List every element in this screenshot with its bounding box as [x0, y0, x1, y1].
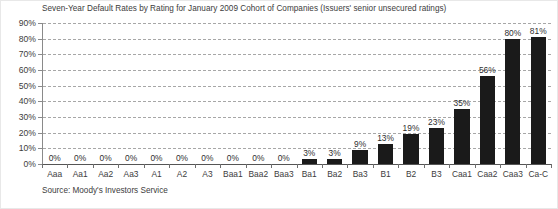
x-axis-category-label: Ba2 — [327, 169, 342, 179]
x-axis-tick — [42, 164, 43, 168]
bar-group: 0% — [195, 23, 220, 164]
x-axis-category-label: Ca-C — [528, 169, 548, 179]
x-axis-tick — [246, 164, 247, 168]
chart-title: Seven-Year Default Rates by Rating for J… — [42, 4, 446, 13]
y-axis-tick-label: 60% — [19, 65, 36, 75]
x-axis-tick — [398, 164, 399, 168]
bar-value-label: 80% — [504, 28, 521, 38]
x-axis-tick — [220, 164, 221, 168]
x-axis-category-label: Aa3 — [124, 169, 139, 179]
bar-value-label: 9% — [354, 139, 366, 149]
x-axis-tick — [297, 164, 298, 168]
x-axis-category-label: Baa1 — [223, 169, 243, 179]
x-axis-category-label: Caa3 — [503, 169, 523, 179]
bar-value-label: 35% — [454, 98, 471, 108]
x-axis-tick — [526, 164, 527, 168]
bar-group: 3% — [297, 23, 322, 164]
bar-value-label: 0% — [49, 153, 61, 163]
x-axis-category-label: A1 — [151, 169, 161, 179]
y-axis-tick-label: 10% — [19, 143, 36, 153]
bar: 23% — [429, 128, 444, 164]
bar-value-label: 0% — [201, 153, 213, 163]
x-axis-tick — [373, 164, 374, 168]
x-axis-tick — [93, 164, 94, 168]
bar-group: 9% — [347, 23, 372, 164]
bar-value-label: 81% — [530, 26, 547, 36]
source-note: Source: Moody's Investors Service — [42, 186, 168, 195]
bar-value-label: 0% — [176, 153, 188, 163]
x-axis-category-label: Caa2 — [477, 169, 497, 179]
bar: 13% — [378, 144, 393, 164]
bar-group: 0% — [118, 23, 143, 164]
x-axis-tick — [195, 164, 196, 168]
bar-group: 0% — [42, 23, 67, 164]
bar-group: 0% — [144, 23, 169, 164]
x-axis-category-label: A2 — [177, 169, 187, 179]
bar-value-label: 23% — [428, 117, 445, 127]
bar: 56% — [480, 76, 495, 164]
x-axis-category-label: Aa1 — [73, 169, 88, 179]
bar-group: 3% — [322, 23, 347, 164]
x-axis-tick — [271, 164, 272, 168]
bar: 9% — [352, 150, 367, 164]
x-axis-tick — [322, 164, 323, 168]
x-axis-category-label: B1 — [380, 169, 390, 179]
x-axis-tick — [169, 164, 170, 168]
bar-group: 0% — [246, 23, 271, 164]
bar: 81% — [531, 37, 546, 164]
x-axis-category-label: A3 — [202, 169, 212, 179]
bar: 3% — [302, 159, 317, 164]
y-axis-tick-label: 50% — [19, 81, 36, 91]
bar-value-label: 13% — [377, 133, 394, 143]
bar-group: 0% — [93, 23, 118, 164]
y-axis-tick-label: 40% — [19, 96, 36, 106]
bar: 35% — [454, 109, 469, 164]
bar-value-label: 3% — [329, 148, 341, 158]
x-axis-tick — [118, 164, 119, 168]
bar-group: 13% — [373, 23, 398, 164]
y-axis-tick-label: 30% — [19, 112, 36, 122]
bar-group: 56% — [475, 23, 500, 164]
bar-group: 80% — [500, 23, 525, 164]
x-axis-tick — [144, 164, 145, 168]
x-axis-category-label: Ba3 — [353, 169, 368, 179]
x-axis-category-label: Baa2 — [249, 169, 269, 179]
bar-group: 0% — [169, 23, 194, 164]
y-axis-tick-label: 20% — [19, 128, 36, 138]
y-axis-tick-label: 80% — [19, 34, 36, 44]
bar-value-label: 0% — [125, 153, 137, 163]
bar-group: 0% — [220, 23, 245, 164]
bar-value-label: 0% — [227, 153, 239, 163]
bar-value-label: 0% — [252, 153, 264, 163]
bar-group: 19% — [398, 23, 423, 164]
x-axis-category-label: Aaa — [47, 169, 62, 179]
bar-group: 35% — [449, 23, 474, 164]
x-axis-tick — [67, 164, 68, 168]
bar-value-label: 56% — [479, 65, 496, 75]
bar-group: 23% — [424, 23, 449, 164]
bar-value-label: 19% — [403, 123, 420, 133]
bar-group: 0% — [67, 23, 92, 164]
bar: 3% — [327, 159, 342, 164]
x-axis-category-label: Caa1 — [452, 169, 472, 179]
y-axis-tick-label: 90% — [19, 18, 36, 28]
y-axis-tick-label: 70% — [19, 49, 36, 59]
x-axis-tick — [449, 164, 450, 168]
bar: 80% — [505, 39, 520, 164]
bar-value-label: 0% — [100, 153, 112, 163]
bar-value-label: 3% — [303, 148, 315, 158]
bar: 19% — [403, 134, 418, 164]
x-axis-tick — [347, 164, 348, 168]
x-axis-category-label: Ba1 — [302, 169, 317, 179]
bar-value-label: 0% — [150, 153, 162, 163]
x-axis-category-label: B2 — [406, 169, 416, 179]
chart-figure: Seven-Year Default Rates by Rating for J… — [0, 0, 558, 209]
bar-group: 0% — [271, 23, 296, 164]
plot-area: 90%80%70%60%50%40%30%20%10%0% 0%0%0%0%0%… — [42, 23, 551, 165]
x-axis-tick — [500, 164, 501, 168]
x-axis-tick — [424, 164, 425, 168]
x-axis-category-label: Aa2 — [98, 169, 113, 179]
x-axis-category-label: Baa3 — [274, 169, 294, 179]
y-axis-tick-label: 0% — [24, 159, 36, 169]
x-axis-tick — [551, 164, 552, 168]
